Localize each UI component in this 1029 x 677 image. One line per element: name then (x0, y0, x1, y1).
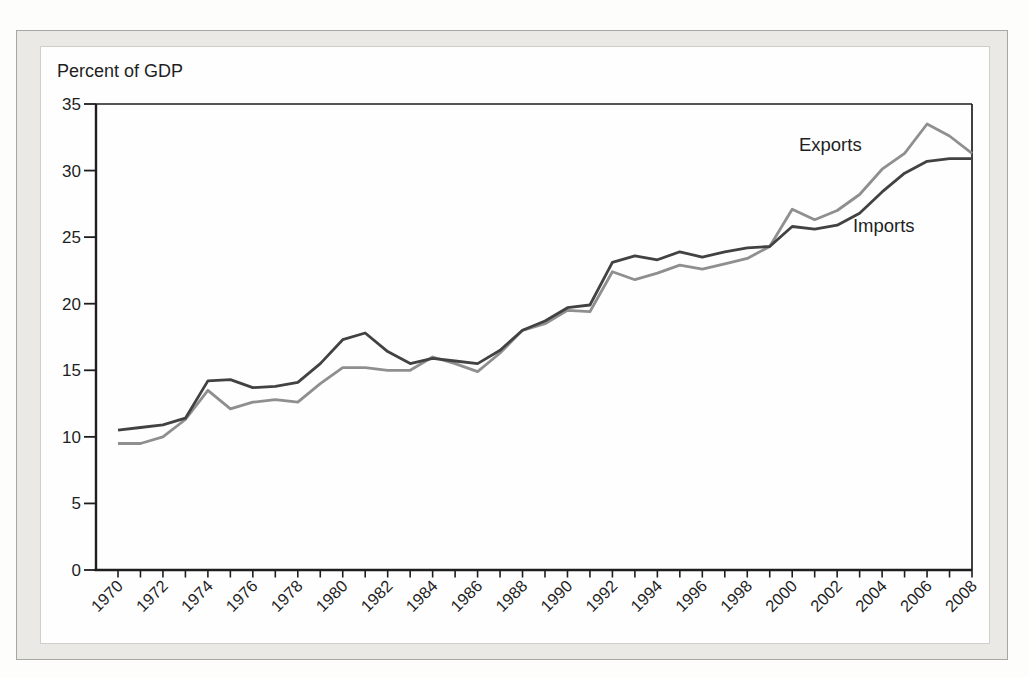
x-tick-label: 1990 (537, 576, 576, 615)
x-tick-label: 2004 (852, 576, 891, 615)
x-tick-label: 1986 (447, 576, 486, 615)
x-tick-label: 1978 (267, 576, 306, 615)
x-tick-label: 1992 (582, 576, 621, 615)
x-tick-label: 1980 (312, 576, 351, 615)
y-tick-label: 5 (72, 494, 81, 513)
chart-panel: Percent of GDP 0510152025303519701972197… (40, 46, 990, 644)
gdp-trade-chart: Percent of GDP 0510152025303519701972197… (41, 47, 989, 643)
exports-label: Exports (799, 134, 862, 155)
imports-label: Imports (853, 215, 915, 236)
page: Percent of GDP 0510152025303519701972197… (0, 0, 1029, 677)
y-tick-label: 10 (62, 428, 81, 447)
y-tick-label: 0 (72, 561, 81, 580)
y-tick-label: 25 (62, 228, 81, 247)
x-tick-label: 1974 (177, 576, 216, 615)
x-tick-label: 1996 (672, 576, 711, 615)
x-tick-label: 1998 (717, 576, 756, 615)
x-tick-label: 2006 (896, 576, 935, 615)
y-tick-label: 15 (62, 361, 81, 380)
y-tick-label: 20 (62, 295, 81, 314)
x-tick-label: 1972 (132, 576, 171, 615)
x-tick-label: 1970 (87, 576, 126, 615)
x-tick-label: 2008 (941, 576, 980, 615)
x-tick-label: 1982 (357, 576, 396, 615)
figure-frame: Percent of GDP 0510152025303519701972197… (16, 30, 1008, 660)
y-tick-label: 30 (62, 162, 81, 181)
x-tick-label: 1994 (627, 576, 666, 615)
x-tick-label: 1976 (222, 576, 261, 615)
exports-line (118, 124, 972, 444)
x-tick-label: 1984 (402, 576, 441, 615)
y-tick-label: 35 (62, 95, 81, 114)
imports-line (118, 159, 972, 431)
axis-title: Percent of GDP (57, 61, 183, 81)
x-tick-label: 2000 (762, 576, 801, 615)
x-tick-label: 2002 (807, 576, 846, 615)
x-tick-label: 1988 (492, 576, 531, 615)
